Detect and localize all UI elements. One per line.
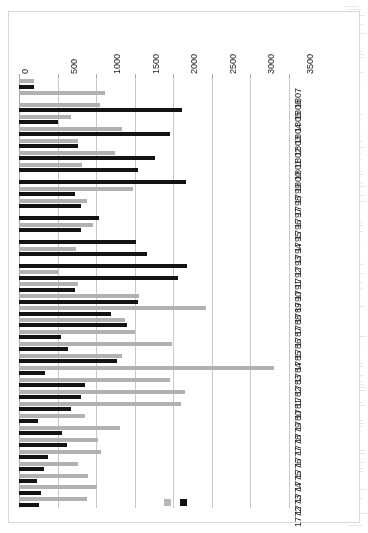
bar-row: [19, 233, 289, 245]
tickmark-2500: [212, 74, 213, 78]
x-tick-label-500: 500: [69, 59, 79, 74]
bar-1806-series-2: [19, 91, 105, 95]
bar-1775-series-1: [19, 467, 44, 471]
tickmark-2000: [173, 74, 174, 78]
bar-1783-series-1: [19, 371, 45, 375]
bar-1797-series-1: [19, 204, 81, 208]
bar-1784-series-2: [19, 354, 122, 358]
bar-row: [19, 162, 289, 174]
gridline-3500: [289, 78, 290, 508]
bar-1790-series-1: [19, 288, 75, 292]
bar-1774-series-2: [19, 474, 88, 478]
bar-1782-series-2: [19, 378, 170, 382]
tickmark-3000: [250, 74, 251, 78]
bar-1803-series-2: [19, 127, 122, 131]
bar-1793-series-2: [19, 247, 76, 251]
bar-1778-series-1: [19, 431, 62, 435]
tickmark-0: [19, 74, 20, 78]
bar-row: [19, 138, 289, 150]
bar-1777-series-2: [19, 438, 98, 442]
bar-1781-series-2: [19, 390, 185, 394]
bar-1780-series-2: [19, 402, 181, 406]
bar-1807-series-1: [19, 85, 34, 89]
bar-row: [19, 78, 289, 90]
bar-row: [19, 412, 289, 424]
bar-row: [19, 341, 289, 353]
bar-1778-series-2: [19, 426, 120, 430]
bar-row: [19, 281, 289, 293]
bar-1773-series-2: [19, 486, 97, 490]
bar-row: [19, 436, 289, 448]
x-tick-label-1500: 1500: [151, 54, 161, 74]
bar-1794-series-1: [19, 240, 136, 244]
bar-1800-series-2: [19, 163, 82, 167]
bar-1782-series-1: [19, 383, 85, 387]
bar-1789-series-2: [19, 294, 139, 298]
figure-page: 0500100015002000250030003500 17721773177…: [0, 0, 368, 533]
bar-1786-series-1: [19, 335, 61, 339]
tickmark-500: [58, 74, 59, 78]
bar-row: [19, 317, 289, 329]
bar-1802-series-1: [19, 144, 78, 148]
bar-row: [19, 150, 289, 162]
x-axis-tick-labels: 0500100015002000250030003500: [19, 18, 289, 74]
bar-1773-series-1: [19, 491, 41, 495]
bar-1777-series-1: [19, 443, 67, 447]
bar-row: [19, 257, 289, 269]
bar-1800-series-1: [19, 168, 138, 172]
bar-1774-series-1: [19, 479, 38, 483]
rotated-figure: 0500100015002000250030003500 17721773177…: [0, 0, 368, 533]
bar-1791-series-2: [19, 271, 58, 275]
bar-row: [19, 174, 289, 186]
bar-row: [19, 484, 289, 496]
bar-1790-series-2: [19, 282, 78, 286]
x-tick-label-1000: 1000: [112, 54, 122, 74]
bar-row: [19, 102, 289, 114]
bar-row: [19, 126, 289, 138]
bar-row: [19, 448, 289, 460]
bar-row: [19, 365, 289, 377]
bar-1805-series-2: [19, 103, 100, 107]
bar-row: [19, 186, 289, 198]
bar-row: [19, 460, 289, 472]
bar-row: [19, 424, 289, 436]
bar-1798-series-2: [19, 187, 133, 191]
bar-1787-series-1: [19, 323, 127, 327]
bar-1797-series-2: [19, 199, 87, 203]
bar-1784-series-1: [19, 359, 117, 363]
x-tick-label-3500: 3500: [305, 54, 315, 74]
bar-1791-series-1: [19, 276, 178, 280]
bar-1799-series-1: [19, 180, 186, 184]
bar-1795-series-2: [19, 223, 93, 227]
bar-1788-series-1: [19, 312, 111, 316]
bar-1787-series-2: [19, 318, 125, 322]
bar-row: [19, 401, 289, 413]
bar-row: [19, 245, 289, 257]
plot-area: [19, 78, 289, 508]
bar-1792-series-1: [19, 264, 187, 268]
bar-row: [19, 472, 289, 484]
bar-1772-series-1: [19, 503, 39, 507]
category-label-1807: 1807: [293, 88, 303, 108]
bar-rows: [19, 78, 289, 508]
tickmark-1500: [135, 74, 136, 78]
bar-row: [19, 377, 289, 389]
bar-1798-series-1: [19, 192, 75, 196]
bar-1805-series-1: [19, 108, 182, 112]
bar-1780-series-1: [19, 407, 71, 411]
bar-1793-series-1: [19, 252, 147, 256]
bar-1796-series-1: [19, 216, 99, 220]
bar-1802-series-2: [19, 139, 78, 143]
legend-swatch-series-2: [164, 499, 171, 506]
tickmark-3500: [289, 74, 290, 78]
bar-row: [19, 496, 289, 508]
bar-1785-series-1: [19, 347, 68, 351]
bar-row: [19, 305, 289, 317]
x-tick-label-3000: 3000: [266, 54, 276, 74]
bar-row: [19, 114, 289, 126]
bar-1803-series-1: [19, 132, 170, 136]
legend-swatch-series-1: [180, 499, 187, 506]
bar-row: [19, 269, 289, 281]
bar-1779-series-1: [19, 419, 38, 423]
bar-1775-series-2: [19, 462, 78, 466]
